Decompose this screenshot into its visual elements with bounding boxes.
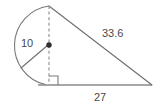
- geometry-diagram: 10 33.6 27: [0, 0, 161, 108]
- right-angle-marker: [49, 76, 58, 85]
- hypotenuse-label: 33.6: [102, 27, 123, 39]
- center-point: [46, 42, 51, 47]
- radius-label: 10: [21, 37, 33, 49]
- figure-canvas: 10 33.6 27: [0, 0, 161, 108]
- hypotenuse-segment: [49, 6, 152, 85]
- base-label: 27: [94, 91, 106, 103]
